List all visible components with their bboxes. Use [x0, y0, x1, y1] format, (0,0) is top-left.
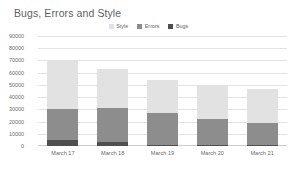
y-axis-tick-label: 0 — [0, 143, 24, 149]
legend-swatch-bugs — [168, 24, 173, 29]
bar-segment-style[interactable] — [197, 86, 228, 119]
chart-container: Bugs, Errors and Style Style Errors Bugs… — [0, 0, 297, 175]
bar-segment-bugs[interactable] — [247, 145, 278, 146]
y-axis-tick-label: 90000 — [0, 33, 24, 39]
y-axis-tick-label: 60000 — [0, 70, 24, 76]
legend-item-bugs[interactable]: Bugs — [168, 24, 188, 29]
x-axis-tick-label: March 19 — [151, 150, 174, 156]
bar-segment-style[interactable] — [247, 89, 278, 123]
legend-label-style: Style — [116, 24, 128, 29]
x-axis-tick-label: March 21 — [250, 150, 273, 156]
bar-segment-bugs[interactable] — [147, 145, 178, 146]
bar-segment-style[interactable] — [147, 80, 178, 113]
bar-series-layer — [38, 36, 287, 146]
bar-stack[interactable] — [147, 80, 178, 146]
bar-segment-style[interactable] — [97, 69, 128, 108]
y-axis-tick-label: 70000 — [0, 57, 24, 63]
bar-segment-errors[interactable] — [197, 119, 228, 146]
bar-segment-bugs[interactable] — [47, 140, 78, 146]
y-axis-tick-label: 10000 — [0, 131, 24, 137]
bar-stack[interactable] — [97, 69, 128, 146]
bar-segment-errors[interactable] — [247, 123, 278, 145]
x-axis-tick-label: March 17 — [51, 150, 74, 156]
y-axis-tick-label: 20000 — [0, 119, 24, 125]
x-axis-tick-label: March 20 — [201, 150, 224, 156]
plot-area: 0100002000030000400005000060000700008000… — [38, 36, 287, 146]
bar-segment-bugs[interactable] — [97, 142, 128, 146]
y-axis-tick-label: 40000 — [0, 94, 24, 100]
chart-title: Bugs, Errors and Style — [14, 7, 121, 19]
y-axis-tick-label: 30000 — [0, 106, 24, 112]
legend-label-errors: Errors — [145, 24, 160, 29]
legend-item-style[interactable]: Style — [109, 24, 128, 29]
bar-stack[interactable] — [247, 89, 278, 146]
legend-item-errors[interactable]: Errors — [137, 24, 159, 29]
y-axis-tick-label: 80000 — [0, 45, 24, 51]
bar-stack[interactable] — [47, 60, 78, 146]
legend-swatch-errors — [137, 24, 142, 29]
legend-label-bugs: Bugs — [176, 24, 188, 29]
bar-segment-errors[interactable] — [47, 109, 78, 140]
y-axis-tick-label: 50000 — [0, 82, 24, 88]
legend-swatch-style — [109, 24, 114, 29]
x-axis-tick-label: March 18 — [101, 150, 124, 156]
bar-segment-errors[interactable] — [97, 108, 128, 142]
bar-segment-bugs[interactable] — [197, 145, 228, 146]
bar-segment-errors[interactable] — [147, 113, 178, 145]
chart-legend: Style Errors Bugs — [0, 24, 297, 29]
bar-segment-style[interactable] — [47, 60, 78, 109]
bar-stack[interactable] — [197, 86, 228, 146]
